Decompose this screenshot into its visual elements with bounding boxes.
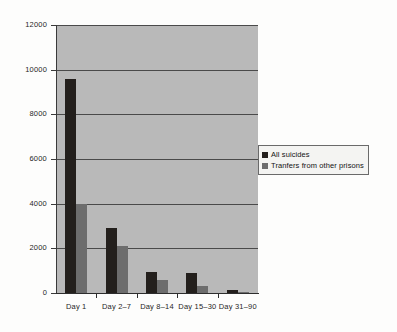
y-axis-tick-label: 10000 — [25, 66, 47, 74]
bar-group — [186, 25, 208, 293]
x-axis: Day 1Day 2–7Day 8–14Day 15–30Day 31–90 — [56, 293, 259, 323]
x-axis-tick — [96, 293, 97, 298]
bar[interactable] — [186, 273, 197, 293]
bar-group — [227, 25, 249, 293]
x-axis-category-label: Day 15–30 — [177, 302, 217, 311]
chart-legend: All suicides Tranfers from other prisons — [258, 145, 369, 175]
legend-item[interactable]: Tranfers from other prisons — [262, 160, 364, 171]
y-axis-tick-label: 6000 — [30, 155, 48, 163]
y-axis-tick-label: 2000 — [30, 244, 48, 252]
bar-group — [146, 25, 168, 293]
x-axis-category-label: Day 31–90 — [218, 302, 258, 311]
bar-group — [106, 25, 128, 293]
y-axis: 020004000600080001000012000 — [0, 25, 56, 294]
legend-item-label: All suicides — [271, 150, 310, 159]
legend-swatch-icon — [262, 163, 268, 169]
bar-chart-figure: 020004000600080001000012000 Day 1Day 2–7… — [0, 0, 397, 332]
legend-item-label: Tranfers from other prisons — [271, 161, 364, 170]
plot-area — [56, 25, 258, 293]
bar[interactable] — [146, 272, 157, 293]
legend-item[interactable]: All suicides — [262, 149, 364, 160]
x-axis-tick — [177, 293, 178, 298]
bar[interactable] — [197, 286, 208, 293]
legend-swatch-icon — [262, 152, 268, 158]
x-axis-category-label: Day 2–7 — [96, 302, 136, 311]
bar[interactable] — [157, 280, 168, 293]
bar-group — [65, 25, 87, 293]
y-axis-tick-label: 8000 — [30, 110, 48, 118]
x-axis-category-label: Day 8–14 — [137, 302, 177, 311]
y-axis-tick-label: 0 — [43, 289, 47, 297]
bar[interactable] — [65, 79, 76, 293]
bar[interactable] — [117, 246, 128, 293]
y-axis-tick-label: 12000 — [25, 21, 47, 29]
x-axis-category-label: Day 1 — [56, 302, 96, 311]
x-axis-tick — [137, 293, 138, 298]
y-axis-line — [56, 25, 57, 294]
bar[interactable] — [106, 228, 117, 293]
x-axis-tick — [218, 293, 219, 298]
bar[interactable] — [76, 204, 87, 293]
y-axis-tick-label: 4000 — [30, 200, 48, 208]
